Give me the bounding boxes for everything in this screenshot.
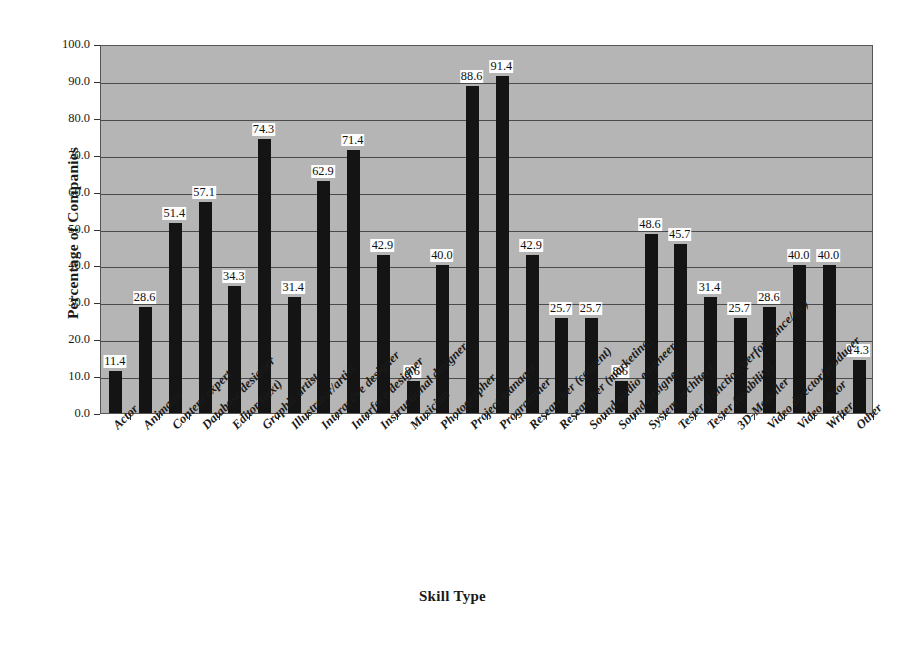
bar-value-label: 25.7	[549, 302, 573, 315]
gridline	[101, 83, 872, 84]
bar-value-label: 40.0	[817, 249, 841, 262]
bar-value-label: 51.4	[163, 207, 187, 220]
bar-value-label: 11.4	[103, 355, 126, 368]
y-axis-tick-label: 60.0	[28, 186, 90, 199]
gridline	[101, 157, 872, 158]
gridline	[101, 120, 872, 121]
bar	[139, 307, 152, 413]
bar	[496, 76, 509, 413]
bar-value-label: 31.4	[281, 281, 305, 294]
bar-value-label: 25.7	[727, 302, 751, 315]
y-axis-tick-label: 90.0	[28, 75, 90, 88]
bar-value-label: 28.6	[757, 291, 781, 304]
y-axis-tick-label: 0.0	[28, 407, 90, 420]
y-axis-tick-label: 30.0	[28, 296, 90, 309]
bar-value-label: 91.4	[490, 60, 514, 73]
y-axis-tick-label: 80.0	[28, 112, 90, 125]
bar-value-label: 28.6	[133, 291, 157, 304]
y-axis-tick-label: 70.0	[28, 149, 90, 162]
bar-value-label: 25.7	[579, 302, 603, 315]
y-axis-tick-label: 10.0	[28, 370, 90, 383]
gridline	[101, 194, 872, 195]
y-axis-tick-label: 50.0	[28, 223, 90, 236]
bar-value-label: 88.6	[460, 70, 484, 83]
y-axis-tick-label: 100.0	[28, 38, 90, 51]
bar	[853, 360, 866, 413]
x-axis-title: Skill Type	[0, 588, 905, 605]
bar-value-label: 74.3	[252, 123, 276, 136]
y-axis-tick-mark	[94, 414, 100, 415]
bar-value-label: 34.3	[222, 270, 246, 283]
bar	[169, 223, 182, 413]
bar-value-label: 48.6	[638, 218, 662, 231]
gridline	[101, 231, 872, 232]
gridline	[101, 304, 872, 305]
bar-value-label: 45.7	[668, 228, 692, 241]
gridline	[101, 267, 872, 268]
bar-value-label: 57.1	[192, 186, 216, 199]
bar-value-label: 31.4	[698, 281, 722, 294]
bar-value-label: 40.0	[787, 249, 811, 262]
bar-value-label: 71.4	[341, 134, 365, 147]
bar-value-label: 42.9	[371, 239, 395, 252]
bar-chart-figure: Percentage of Companies 0.010.020.030.04…	[0, 0, 905, 647]
bar-value-label: 40.0	[430, 249, 454, 262]
bar-value-label: 62.9	[311, 165, 335, 178]
bar-value-label: 42.9	[519, 239, 543, 252]
y-axis-tick-label: 40.0	[28, 259, 90, 272]
bar	[109, 371, 122, 413]
bar	[466, 86, 479, 413]
y-axis-tick-label: 20.0	[28, 333, 90, 346]
